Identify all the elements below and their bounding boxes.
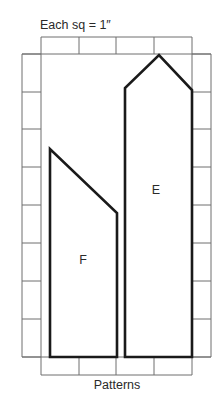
diagram-caption: Patterns	[0, 378, 224, 392]
pattern-f-label: F	[79, 253, 87, 267]
pattern-diagram: EF	[0, 0, 224, 413]
pattern-shapes: EF	[50, 55, 192, 357]
pattern-e-label: E	[152, 183, 160, 197]
pattern-e-outline	[125, 55, 192, 357]
